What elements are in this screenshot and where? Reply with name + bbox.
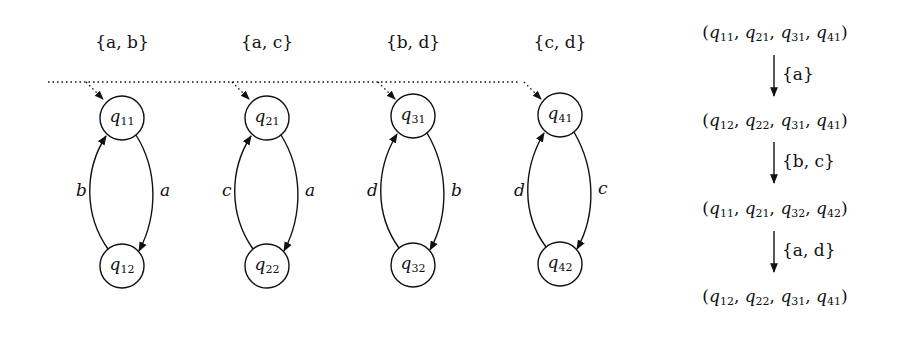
run-step-label-3: {a, d} — [782, 240, 835, 260]
edge-label-q32-q31: d — [367, 180, 378, 200]
state-label-q42: q42 — [548, 252, 573, 274]
initial-arrow-q31 — [378, 82, 395, 99]
state-label-q41: q41 — [548, 103, 573, 125]
state-label-q31: q31 — [401, 104, 426, 126]
state-label-q12: q12 — [110, 254, 135, 276]
edge-q21-q22 — [281, 135, 298, 251]
initial-arrow-q11 — [86, 82, 103, 99]
edge-label-q12-q11: b — [76, 180, 87, 200]
alphabet-label-3: {b, d} — [386, 32, 440, 52]
edge-label-q11-q12: a — [160, 180, 170, 200]
state-label-q11: q11 — [110, 106, 135, 128]
alphabet-label-2: {a, c} — [241, 32, 293, 52]
edge-label-q41-q42: c — [598, 178, 608, 198]
alphabet-label-4: {c, d} — [534, 32, 587, 52]
edge-q12-q11 — [90, 136, 108, 249]
run-step-label-1: {a} — [782, 64, 814, 84]
alphabet-label-1: {a, b} — [95, 32, 148, 52]
edge-q42-q41 — [528, 133, 546, 247]
edge-q22-q21 — [235, 136, 253, 249]
run-config-1: (q11, q21, q31, q41) — [702, 22, 847, 44]
initial-arrow-q21 — [232, 82, 249, 99]
run-step-label-2: {b, c} — [782, 151, 835, 171]
edge-label-q21-q22: a — [305, 180, 315, 200]
edge-label-q42-q41: d — [514, 180, 525, 200]
edge-q11-q12 — [136, 135, 153, 251]
edge-q32-q31 — [381, 134, 399, 248]
run-config-4: (q12, q22, q31, q41) — [702, 286, 847, 308]
state-label-q22: q22 — [255, 254, 280, 276]
run-config-2: (q12, q22, q31, q41) — [702, 110, 847, 132]
edge-label-q31-q32: b — [451, 180, 462, 200]
edge-q31-q32 — [427, 133, 444, 250]
state-label-q21: q21 — [255, 106, 280, 128]
edge-q41-q42 — [574, 132, 591, 249]
run-config-3: (q11, q21, q32, q42) — [702, 198, 847, 220]
initial-arrow-q41 — [524, 82, 541, 99]
edge-label-q22-q21: c — [222, 180, 232, 200]
state-label-q32: q32 — [401, 253, 426, 275]
